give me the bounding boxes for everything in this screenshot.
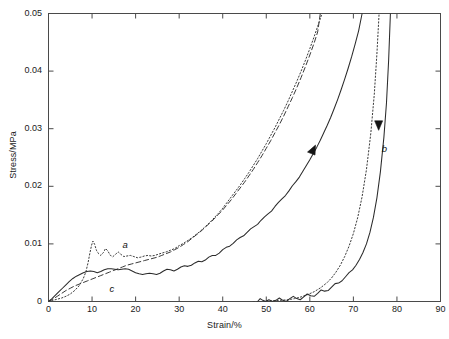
y-tick-label: 0 [2, 296, 42, 306]
x-tick-label: 0 [29, 304, 69, 314]
y-tick-label: 0.03 [2, 123, 42, 133]
curve-label-c: c [109, 283, 114, 294]
figure-stress-strain-chart: Strain/% Stress/MPa 0102030405060708090 … [0, 0, 449, 339]
y-tick-label: 0.02 [2, 180, 42, 190]
x-tick-label: 70 [333, 304, 373, 314]
arrowhead-left-on-solid-curve [308, 145, 316, 155]
arrow-markers [308, 121, 383, 155]
curve-solid-left [49, 14, 363, 302]
x-axis-label: Strain/% [0, 320, 449, 330]
curve-b-solid [258, 14, 391, 302]
y-tick-label: 0.01 [2, 238, 42, 248]
x-tick-label: 90 [421, 304, 449, 314]
curve-label-a: a [123, 239, 128, 250]
x-tick-label: 30 [159, 304, 199, 314]
y-tick-label: 0.05 [2, 8, 42, 18]
chart-canvas [0, 0, 449, 339]
x-tick-label: 20 [116, 304, 156, 314]
y-tick-label: 0.04 [2, 65, 42, 75]
curve-a [49, 14, 323, 302]
x-tick-label: 60 [290, 304, 330, 314]
arrowhead-down-on-solid-curve-b [375, 121, 383, 131]
x-tick-label: 10 [72, 304, 112, 314]
curve-label-b: b [382, 143, 387, 154]
x-tick-label: 40 [203, 304, 243, 314]
data-curves [49, 14, 391, 302]
x-tick-label: 80 [377, 304, 417, 314]
x-tick-label: 50 [246, 304, 286, 314]
